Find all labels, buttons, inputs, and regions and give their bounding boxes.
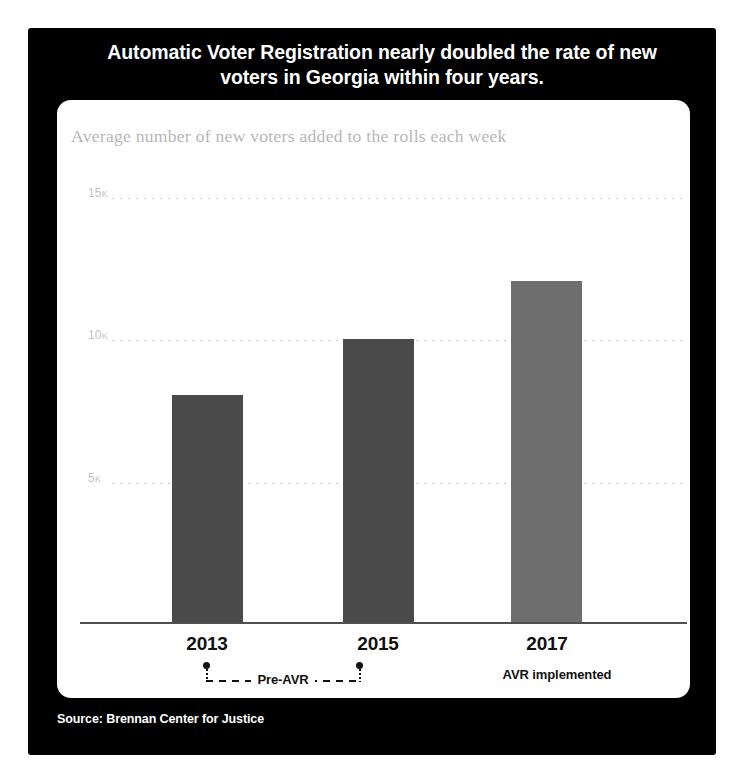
- bar-2013: [172, 395, 243, 622]
- bar-2015: [343, 339, 414, 622]
- pre-avr-label: Pre-AVR: [251, 672, 315, 687]
- gridline-15k: [112, 198, 685, 199]
- axis-baseline: [80, 622, 687, 624]
- page-title: Automatic Voter Registration nearly doub…: [76, 40, 688, 90]
- avr-implemented-label: AVR implemented: [467, 667, 647, 682]
- plot-area: 15K 10K 5K 2013 2015 2017 Pre-AVR AVR im…: [57, 100, 690, 698]
- source-note: Source: Brennan Center for Justice: [57, 712, 264, 726]
- ytick-label-15k: 15K: [88, 186, 108, 200]
- chart-card: Average number of new voters added to th…: [57, 100, 690, 698]
- bracket-dot-right: [356, 662, 363, 669]
- xtick-label-2017: 2017: [467, 633, 627, 655]
- pre-avr-bracket: Pre-AVR: [177, 662, 389, 688]
- bar-2017: [511, 281, 582, 622]
- xtick-label-2015: 2015: [298, 633, 458, 655]
- xtick-label-2013: 2013: [127, 633, 287, 655]
- bracket-dot-left: [203, 662, 210, 669]
- ytick-label-10k: 10K: [88, 328, 108, 342]
- chart-frame: Automatic Voter Registration nearly doub…: [28, 28, 716, 755]
- ytick-label-5k: 5K: [88, 471, 101, 485]
